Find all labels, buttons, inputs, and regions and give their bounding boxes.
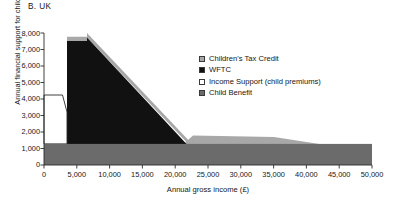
series-area-income-support — [44, 95, 67, 144]
chart-legend: Children's Tax Credit WFTC Income Suppor… — [199, 53, 321, 99]
legend-label: Income Support (child premiums) — [209, 78, 321, 86]
legend-label: Child Benefit — [209, 89, 252, 97]
legend-item-wftc: WFTC — [199, 65, 321, 77]
legend-item-childrens-tax-credit: Children's Tax Credit — [199, 53, 321, 65]
chart-figure: B. UK Annual financial support for child… — [0, 0, 407, 204]
legend-swatch-icon — [199, 79, 205, 85]
plot-area — [0, 0, 407, 204]
series-area-wftc — [67, 38, 187, 144]
legend-item-income-support: Income Support (child premiums) — [199, 76, 321, 88]
series-area-child-benefit — [44, 144, 372, 165]
legend-item-child-benefit: Child Benefit — [199, 88, 321, 100]
legend-swatch-icon — [199, 67, 205, 73]
y-axis-ticks — [41, 33, 45, 165]
legend-swatch-icon — [199, 90, 205, 96]
x-axis-ticks — [44, 165, 372, 169]
legend-label: Children's Tax Credit — [209, 55, 279, 63]
series-area-childrens-tax-credit-tail — [184, 136, 320, 144]
legend-label: WFTC — [209, 66, 231, 74]
legend-swatch-icon — [199, 56, 205, 62]
